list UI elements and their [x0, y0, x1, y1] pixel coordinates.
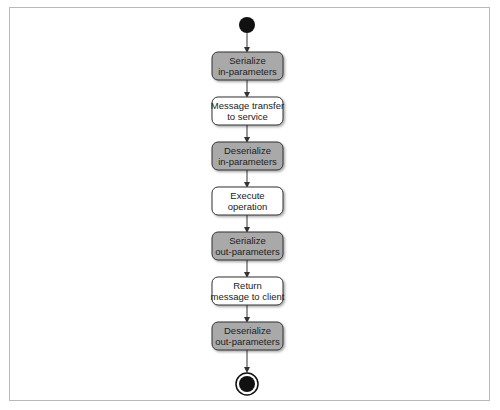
node-label: message to client: [211, 291, 285, 302]
node-label: Message transfer: [211, 100, 284, 111]
node-label: Serialize: [229, 235, 265, 246]
start-node-icon: [239, 17, 255, 33]
node-label: Deserialize: [224, 325, 271, 336]
activity-diagram: Serialize in-parameters Message transfer…: [0, 0, 500, 410]
end-node-icon: [236, 373, 258, 395]
node-label: in-parameters: [218, 66, 277, 77]
node-label: operation: [228, 201, 268, 212]
node-label: out-parameters: [215, 246, 280, 257]
node-label: Execute: [230, 190, 264, 201]
node-label: to service: [227, 111, 268, 122]
node-label: Deserialize: [224, 145, 271, 156]
node-label: out-parameters: [215, 336, 280, 347]
node-label: Return: [233, 280, 262, 291]
node-label: Serialize: [229, 55, 265, 66]
node-label: in-parameters: [218, 156, 277, 167]
